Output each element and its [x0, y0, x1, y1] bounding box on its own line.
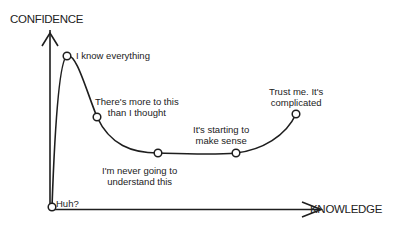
marker-never-understand	[154, 149, 162, 157]
label-trust-me-line1: Trust me. It's	[269, 86, 323, 97]
label-never-understand: I'm never going to understand this	[102, 165, 177, 187]
x-axis-label: KNOWLEDGE	[310, 203, 382, 215]
marker-starting-to-make-sense	[232, 149, 240, 157]
label-starting-to-make-sense: It's starting to make sense	[193, 124, 249, 146]
label-more-to-this-line1: There's more to this	[95, 96, 179, 107]
label-starting-line2: make sense	[193, 135, 249, 146]
marker-huh	[48, 203, 56, 211]
marker-i-know-everything	[63, 52, 71, 60]
label-more-to-this-line2: than I thought	[95, 107, 179, 118]
label-more-to-this: There's more to this than I thought	[95, 96, 179, 118]
marker-trust-me	[292, 110, 300, 118]
y-axis-label: CONFIDENCE	[10, 13, 83, 25]
label-trust-me: Trust me. It's complicated	[269, 86, 323, 108]
label-trust-me-line2: complicated	[269, 97, 323, 108]
label-never-understand-line2: understand this	[102, 176, 177, 187]
label-huh: Huh?	[56, 198, 79, 209]
label-i-know-everything: I know everything	[76, 50, 150, 61]
label-starting-line1: It's starting to	[193, 124, 249, 135]
label-never-understand-line1: I'm never going to	[102, 165, 177, 176]
